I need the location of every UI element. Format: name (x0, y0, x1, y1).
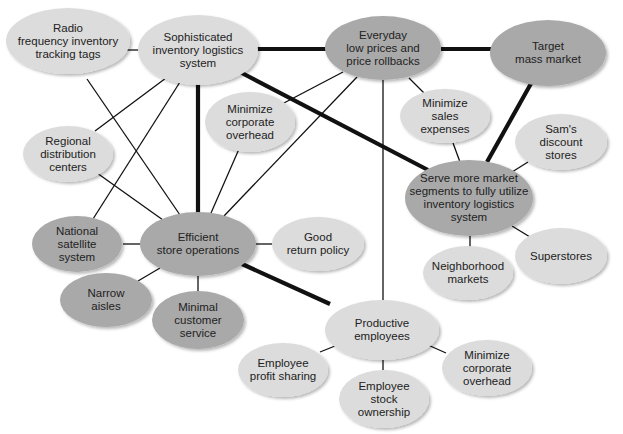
node-sams (515, 114, 607, 170)
node-stock-ownership (339, 370, 429, 428)
node-sales-expenses (400, 89, 490, 143)
node-corp-overhead-top (205, 92, 295, 152)
link-segments-to-superstores (512, 226, 530, 237)
link-logistics-to-regional (95, 78, 166, 131)
node-edlp (325, 16, 441, 80)
link-edlp-to-sales_expenses (409, 78, 424, 93)
node-rfid (6, 8, 130, 74)
link-edlp-to-corp_overhead_top (282, 72, 343, 104)
node-narrow (60, 273, 152, 327)
node-minimal-service (152, 291, 244, 349)
node-return-policy (272, 217, 364, 271)
node-segments (405, 160, 533, 236)
node-target (490, 20, 606, 86)
node-logistics (138, 15, 258, 85)
node-profit-sharing (238, 343, 328, 397)
node-corp-overhead-bottom (442, 340, 532, 396)
node-productive (325, 300, 439, 360)
link-corp_overhead_top-to-efficient (211, 149, 239, 213)
nodes-layer (6, 8, 607, 428)
activity-system-diagram (0, 0, 623, 434)
link-sams-to-segments (512, 162, 528, 172)
node-neighborhood (423, 246, 513, 300)
link-sales_expenses-to-segments (453, 143, 460, 162)
link-efficient-to-narrow (138, 268, 160, 281)
link-productive-to-corp_overhead_bottom (428, 345, 446, 353)
node-regional (23, 126, 113, 182)
node-superstores (515, 228, 607, 284)
node-satellite (32, 216, 122, 272)
node-efficient (140, 212, 256, 276)
